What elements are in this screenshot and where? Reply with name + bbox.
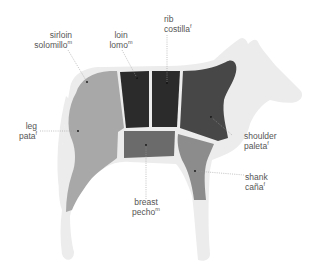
label-leg-gender: f: [35, 130, 37, 136]
label-rib-en: rib: [164, 14, 204, 24]
marker-rib: [166, 82, 168, 84]
cut-breast[interactable]: [124, 131, 175, 158]
label-shoulder-en: shoulder: [244, 131, 294, 141]
label-shank: shank cañaf: [245, 172, 285, 192]
label-sirloin-es: solomillo: [34, 40, 67, 50]
label-breast-gender: m: [155, 206, 160, 212]
label-shoulder-gender: f: [267, 140, 269, 146]
label-breast-en: breast: [124, 197, 168, 207]
label-sirloin-en: sirloin: [30, 30, 72, 40]
label-leg: leg pataf: [4, 121, 37, 141]
label-rib-gender: f: [190, 23, 192, 29]
marker-shoulder: [210, 116, 212, 118]
label-loin-es: lomo: [109, 40, 127, 50]
marker-leg: [77, 130, 79, 132]
cut-rib[interactable]: [152, 71, 180, 127]
marker-shank: [194, 170, 196, 172]
label-shank-gender: f: [263, 181, 265, 187]
label-sirloin: sirloin solomillom: [30, 30, 72, 50]
label-shank-en: shank: [245, 172, 285, 182]
label-loin-gender: m: [128, 39, 133, 45]
label-leg-es: pata: [19, 131, 36, 141]
marker-breast: [145, 144, 147, 146]
label-shoulder: shoulder paletaf: [244, 131, 294, 151]
label-rib: rib costillaf: [164, 14, 204, 34]
label-rib-es: costilla: [164, 24, 190, 34]
label-loin: loin lomom: [104, 30, 138, 50]
label-breast: breast pechom: [124, 197, 168, 217]
marker-sirloin: [86, 81, 88, 83]
label-sirloin-gender: m: [67, 39, 72, 45]
label-breast-es: pecho: [132, 207, 155, 217]
label-shank-es: caña: [245, 182, 263, 192]
label-shoulder-es: paleta: [244, 141, 267, 151]
label-leg-en: leg: [4, 121, 37, 131]
marker-loin: [136, 77, 138, 79]
